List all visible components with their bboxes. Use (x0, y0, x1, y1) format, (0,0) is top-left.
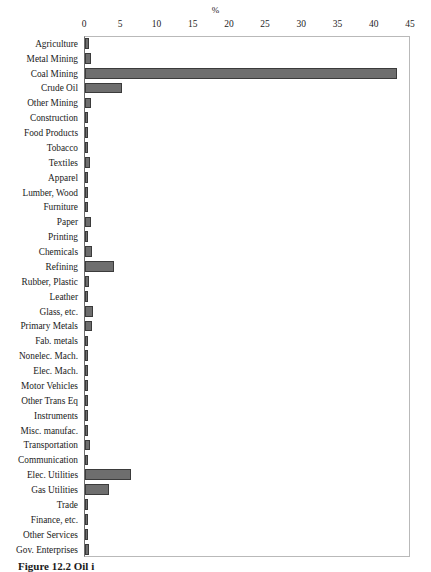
bar-row: Food Products (0, 125, 431, 140)
bar-rows: AgricultureMetal MiningCoal MiningCrude … (0, 36, 431, 557)
bar-refining (85, 261, 114, 272)
bar-row: Furniture (0, 200, 431, 215)
category-label-instruments: Instruments (0, 412, 78, 421)
category-label-primary-metals: Primary Metals (0, 322, 78, 331)
category-label-misc-manufac: Misc. manufac. (0, 427, 78, 436)
category-label-glass-etc: Glass, etc. (0, 308, 78, 317)
category-label-crude-oil: Crude Oil (0, 84, 78, 93)
bar-row: Metal Mining (0, 51, 431, 66)
category-label-motor-vehicles: Motor Vehicles (0, 382, 78, 391)
category-label-lumber-wood: Lumber, Wood (0, 189, 78, 198)
bar-row: Other Trans Eq (0, 393, 431, 408)
x-tick-label-35: 35 (333, 18, 343, 30)
x-tick-label-10: 10 (152, 18, 162, 30)
category-label-agriculture: Agriculture (0, 40, 78, 49)
bar-textiles (85, 157, 90, 168)
bar-row: Transportation (0, 438, 431, 453)
bar-row: Chemicals (0, 244, 431, 259)
bar-misc-manufac (85, 425, 88, 436)
bar-row: Textiles (0, 155, 431, 170)
category-label-paper: Paper (0, 218, 78, 227)
bar-row: Primary Metals (0, 319, 431, 334)
category-label-communication: Communication (0, 456, 78, 465)
bar-lumber-wood (85, 187, 88, 198)
bar-coal-mining (85, 68, 397, 79)
bar-apparel (85, 172, 88, 183)
bar-row: Agriculture (0, 36, 431, 51)
bar-row: Refining (0, 259, 431, 274)
category-label-rubber-plastic: Rubber, Plastic (0, 278, 78, 287)
bar-row: Misc. manufac. (0, 423, 431, 438)
category-label-construction: Construction (0, 114, 78, 123)
bar-elec-utilities (85, 469, 131, 480)
bar-fab-metals (85, 336, 88, 347)
bar-row: Tobacco (0, 140, 431, 155)
category-label-nonelec-mach: Nonelec. Mach. (0, 352, 78, 361)
x-tick-label-5: 5 (118, 18, 123, 30)
bar-row: Instruments (0, 408, 431, 423)
bar-row: Motor Vehicles (0, 378, 431, 393)
category-label-other-services: Other Services (0, 531, 78, 540)
bar-crude-oil (85, 83, 122, 94)
figure-container: % 051015202530354045 AgricultureMetal Mi… (0, 0, 431, 572)
bar-row: Gov. Enterprises (0, 542, 431, 557)
category-label-refining: Refining (0, 263, 78, 272)
bar-gov-enterprises (85, 544, 89, 555)
category-label-apparel: Apparel (0, 174, 78, 183)
bar-row: Printing (0, 229, 431, 244)
category-label-elec-utilities: Elec. Utilities (0, 471, 78, 480)
category-label-transportation: Transportation (0, 441, 78, 450)
bar-agriculture (85, 38, 89, 49)
bar-row: Gas Utilities (0, 482, 431, 497)
bar-elec-mach (85, 365, 88, 376)
category-label-metal-mining: Metal Mining (0, 55, 78, 64)
bar-paper (85, 217, 91, 228)
category-label-other-mining: Other Mining (0, 99, 78, 108)
bar-row: Other Services (0, 527, 431, 542)
chart-axis-title: % (0, 5, 431, 15)
category-label-chemicals: Chemicals (0, 248, 78, 257)
bar-metal-mining (85, 53, 91, 64)
x-tick-label-15: 15 (188, 18, 198, 30)
bar-row: Communication (0, 453, 431, 468)
category-label-food-products: Food Products (0, 129, 78, 138)
bar-glass-etc (85, 306, 93, 317)
category-label-elec-mach: Elec. Mach. (0, 367, 78, 376)
bar-row: Trade (0, 497, 431, 512)
bar-other-mining (85, 98, 91, 109)
bar-row: Nonelec. Mach. (0, 348, 431, 363)
bar-other-services (85, 529, 88, 540)
bar-row: Construction (0, 110, 431, 125)
bar-tobacco (85, 142, 88, 153)
bar-communication (85, 455, 88, 466)
bar-trade (85, 499, 88, 510)
x-tick-label-30: 30 (297, 18, 307, 30)
bar-motor-vehicles (85, 380, 88, 391)
bar-nonelec-mach (85, 350, 88, 361)
x-tick-label-0: 0 (82, 18, 87, 30)
bar-rubber-plastic (85, 276, 89, 287)
category-label-gas-utilities: Gas Utilities (0, 486, 78, 495)
figure-caption: Figure 12.2 Oil i (18, 560, 418, 572)
category-label-tobacco: Tobacco (0, 144, 78, 153)
category-label-coal-mining: Coal Mining (0, 70, 78, 79)
category-label-gov-enterprises: Gov. Enterprises (0, 546, 78, 555)
bar-row: Leather (0, 289, 431, 304)
category-label-trade: Trade (0, 501, 78, 510)
category-label-finance-etc: Finance, etc. (0, 516, 78, 525)
x-tick-label-40: 40 (369, 18, 379, 30)
bar-row: Coal Mining (0, 66, 431, 81)
bar-row: Crude Oil (0, 81, 431, 96)
bar-other-trans-eq (85, 395, 88, 406)
bar-row: Elec. Mach. (0, 363, 431, 378)
bar-gas-utilities (85, 484, 109, 495)
bar-row: Finance, etc. (0, 512, 431, 527)
bar-row: Elec. Utilities (0, 467, 431, 482)
x-tick-label-25: 25 (260, 18, 270, 30)
bar-transportation (85, 440, 90, 451)
bar-row: Apparel (0, 170, 431, 185)
bar-row: Lumber, Wood (0, 185, 431, 200)
category-label-other-trans-eq: Other Trans Eq (0, 397, 78, 406)
bar-leather (85, 291, 88, 302)
category-label-printing: Printing (0, 233, 78, 242)
